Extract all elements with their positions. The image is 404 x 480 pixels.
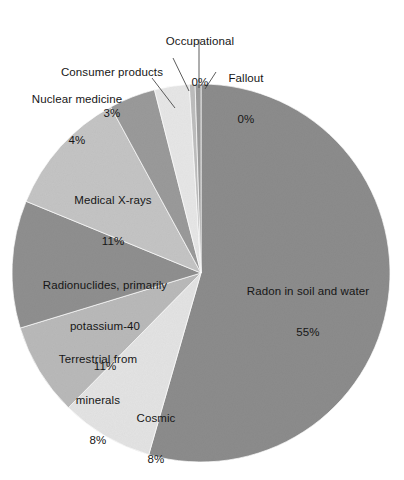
slice-label-terrestrial-pct: 8% xyxy=(38,434,158,448)
pie-chart: Radon in soil and water 55% Cosmic 8% Te… xyxy=(0,0,404,480)
slice-label-medical-xrays-name: Medical X-rays xyxy=(48,194,178,208)
slice-label-fallout: Fallout 0% xyxy=(209,45,283,153)
slice-label-radon: Radon in soil and water 55% xyxy=(228,258,388,366)
slice-label-medical-xrays-pct: 11% xyxy=(48,235,178,249)
slice-label-radionuclides-pct: 11% xyxy=(20,360,190,374)
slice-label-radionuclides-name-line2: potassium-40 xyxy=(20,320,190,334)
slice-label-radon-pct: 55% xyxy=(228,326,388,340)
slice-label-radionuclides-name-line1: Radionuclides, primarily xyxy=(20,279,190,293)
slice-label-fallout-pct: 0% xyxy=(209,113,283,127)
slice-label-radon-name: Radon in soil and water xyxy=(228,285,388,299)
slice-label-fallout-name: Fallout xyxy=(209,72,283,86)
slice-label-medical-xrays: Medical X-rays 11% xyxy=(48,167,178,275)
